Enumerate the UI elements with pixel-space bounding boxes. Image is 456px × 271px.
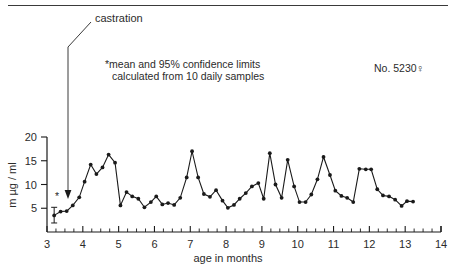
x-tick-label-10: 10 (292, 238, 304, 250)
data-point (400, 204, 404, 208)
data-point (322, 155, 326, 159)
data-point (166, 201, 170, 205)
data-point (136, 197, 140, 201)
data-point (190, 149, 194, 153)
data-point (172, 203, 176, 207)
x-axis-ticks (47, 226, 441, 232)
data-point (143, 205, 147, 209)
annotation-line-2: calculated from 10 daily samples (112, 70, 264, 82)
x-tick-label-4: 4 (80, 238, 86, 250)
data-point (345, 196, 349, 200)
data-point (304, 200, 308, 204)
castration-label: castration (95, 12, 143, 24)
data-point (268, 151, 272, 155)
data-point (351, 200, 355, 204)
x-axis-tick-labels: 34567891011121314 (44, 238, 447, 250)
x-tick-label-9: 9 (259, 238, 265, 250)
data-point (369, 167, 373, 171)
y-tick-label-5: 5 (31, 202, 37, 214)
castration-callout-leader (65, 22, 91, 199)
chart-svg: castration *mean and 95% confidence limi… (0, 0, 456, 271)
y-tick-label-10: 10 (25, 179, 37, 191)
data-point (160, 203, 164, 207)
data-point (387, 194, 391, 198)
data-point (340, 194, 344, 198)
data-point (250, 185, 254, 189)
data-point (274, 183, 278, 187)
top-rule-divider (8, 5, 448, 6)
data-point (71, 204, 75, 208)
data-point (244, 191, 248, 195)
data-point (333, 189, 337, 193)
data-point (393, 198, 397, 202)
data-point (89, 163, 93, 167)
x-tick-label-12: 12 (363, 238, 375, 250)
x-tick-label-11: 11 (328, 238, 339, 250)
data-point (125, 190, 129, 194)
data-point (149, 200, 153, 204)
y-tick-label-20: 20 (25, 131, 37, 143)
y-tick-label-15: 15 (25, 155, 37, 167)
data-point (113, 161, 117, 165)
data-point (65, 209, 69, 213)
x-axis-title: age in months (193, 252, 263, 264)
data-point (95, 172, 99, 176)
data-point (154, 194, 158, 198)
data-point (196, 175, 200, 179)
data-point (262, 197, 266, 201)
data-point (364, 167, 368, 171)
data-point (286, 158, 290, 162)
x-tick-label-5: 5 (116, 238, 122, 250)
y-axis-title: m µg / ml (6, 162, 18, 207)
data-point (328, 173, 332, 177)
data-point (77, 195, 81, 199)
asterisk-marker: * (55, 190, 59, 202)
x-tick-label-6: 6 (151, 238, 157, 250)
data-point (208, 195, 212, 199)
confidence-interval-error-bar (51, 207, 57, 223)
data-point (107, 153, 111, 157)
data-point (411, 200, 415, 204)
data-point (280, 196, 284, 200)
data-point (214, 188, 218, 192)
data-point (202, 192, 206, 196)
x-tick-label-3: 3 (44, 238, 50, 250)
figure-container: castration *mean and 95% confidence limi… (0, 0, 456, 271)
data-point (309, 193, 313, 197)
data-point (101, 166, 105, 170)
data-point (298, 200, 302, 204)
y-axis-ticks (41, 137, 47, 208)
data-point (292, 185, 296, 189)
data-point (226, 206, 230, 210)
specimen-id-label: No. 5230♀ (374, 62, 425, 74)
data-point (59, 210, 63, 214)
data-point (357, 167, 361, 171)
x-tick-label-8: 8 (223, 238, 229, 250)
annotation-line-1: *mean and 95% confidence limits (105, 58, 260, 70)
data-point (381, 194, 385, 198)
data-point (178, 196, 182, 200)
data-point (130, 194, 134, 198)
x-tick-label-14: 14 (435, 238, 447, 250)
data-point (405, 199, 409, 203)
data-point (238, 197, 242, 201)
data-point (256, 181, 260, 185)
data-point (119, 204, 123, 208)
data-point (316, 177, 320, 181)
data-point (221, 199, 225, 203)
data-point (185, 175, 189, 179)
x-tick-label-13: 13 (399, 238, 411, 250)
data-point (375, 187, 379, 191)
x-tick-label-7: 7 (187, 238, 193, 250)
data-point (232, 203, 236, 207)
y-axis-tick-labels: 20 15 10 5 (25, 131, 37, 214)
data-point (83, 180, 87, 184)
